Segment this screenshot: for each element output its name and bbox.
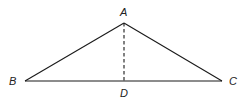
label-b: B bbox=[9, 75, 16, 87]
label-d: D bbox=[120, 87, 128, 98]
segment-ab bbox=[25, 23, 124, 81]
label-c: C bbox=[229, 75, 237, 87]
segment-ac bbox=[124, 23, 222, 81]
label-a: A bbox=[119, 6, 127, 18]
triangle-diagram: A B C D bbox=[0, 0, 249, 98]
